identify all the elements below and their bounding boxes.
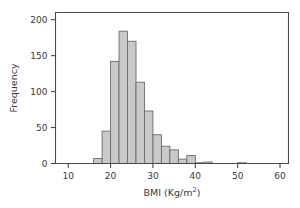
histogram-bar: [187, 156, 195, 164]
x-axis-title-close: ): [197, 187, 201, 198]
y-tick-label: 100: [30, 87, 47, 97]
y-axis-ticks: 050100150200: [30, 15, 55, 169]
histogram-figure: 102030405060 050100150200 BMI (Kg/m2)Fre…: [0, 0, 300, 208]
histogram-bar: [144, 111, 152, 163]
x-tick-label: 50: [232, 171, 244, 181]
histogram-bar: [128, 41, 136, 163]
x-axis-title-base: BMI (Kg/m: [144, 187, 193, 198]
x-tick-label: 60: [274, 171, 286, 181]
plot-frame: [56, 13, 289, 164]
histogram-bar: [161, 146, 169, 163]
x-tick-label: 40: [190, 171, 202, 181]
histogram-bar: [102, 131, 110, 163]
x-axis-ticks: 102030405060: [62, 164, 286, 182]
bars-group: [94, 31, 247, 163]
x-tick-label: 10: [62, 171, 74, 181]
x-axis-title: BMI (Kg/m2): [144, 186, 201, 198]
histogram-bar: [153, 135, 161, 164]
histogram-bar: [119, 31, 127, 163]
histogram-bar: [111, 61, 119, 163]
y-tick-label: 150: [30, 51, 47, 61]
histogram-bar: [170, 150, 178, 164]
chart-canvas: 102030405060 050100150200 BMI (Kg/m2)Fre…: [0, 0, 300, 208]
x-tick-label: 20: [105, 171, 117, 181]
histogram-bar: [178, 159, 186, 163]
x-tick-label: 30: [147, 171, 159, 181]
y-tick-label: 50: [36, 123, 48, 133]
histogram-bar: [136, 82, 144, 163]
histogram-bar: [94, 158, 102, 163]
y-tick-label: 0: [42, 159, 48, 169]
y-axis-title: Frequency: [8, 63, 19, 112]
y-tick-label: 200: [30, 15, 47, 25]
plot-border: [56, 13, 289, 164]
